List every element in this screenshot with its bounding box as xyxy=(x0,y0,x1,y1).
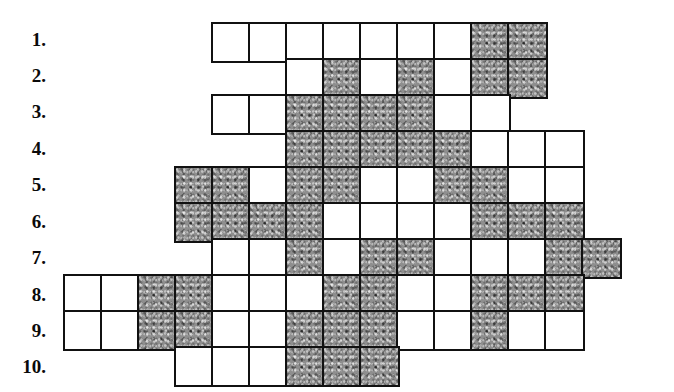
grid-cell-r3-c7[interactable] xyxy=(285,94,326,135)
grid-cell-r9-c4[interactable] xyxy=(174,310,215,351)
grid-cell-r8-c3[interactable] xyxy=(137,274,178,315)
grid-cell-r5-c5[interactable] xyxy=(211,166,252,207)
grid-cell-r4-c10[interactable] xyxy=(396,130,437,171)
grid-cell-r6-c10[interactable] xyxy=(396,202,437,243)
grid-cell-r2-c8[interactable] xyxy=(322,58,363,99)
grid-cell-r10-c4[interactable] xyxy=(174,346,215,387)
grid-cell-r7-c8[interactable] xyxy=(322,238,363,279)
grid-cell-r4-c7[interactable] xyxy=(285,130,326,171)
grid-cell-r6-c12[interactable] xyxy=(470,202,511,243)
grid-cell-r8-c2[interactable] xyxy=(100,274,141,315)
grid-cell-r7-c11[interactable] xyxy=(433,238,474,279)
grid-cell-r3-c5[interactable] xyxy=(211,94,252,135)
grid-cell-r2-c13[interactable] xyxy=(507,58,548,99)
grid-cell-r7-c9[interactable] xyxy=(359,238,400,279)
grid-cell-r8-c4[interactable] xyxy=(174,274,215,315)
grid-cell-r2-c11[interactable] xyxy=(433,58,474,99)
grid-cell-r1-c13[interactable] xyxy=(507,22,548,63)
grid-cell-r5-c7[interactable] xyxy=(285,166,326,207)
grid-cell-r2-c12[interactable] xyxy=(470,58,511,99)
grid-cell-r10-c9[interactable] xyxy=(359,346,400,387)
grid-cell-r8-c7[interactable] xyxy=(285,274,326,315)
grid-cell-r8-c12[interactable] xyxy=(470,274,511,315)
grid-cell-r10-c8[interactable] xyxy=(322,346,363,387)
grid-cell-r6-c11[interactable] xyxy=(433,202,474,243)
grid-cell-r5-c9[interactable] xyxy=(359,166,400,207)
grid-cell-r5-c11[interactable] xyxy=(433,166,474,207)
grid-cell-r1-c8[interactable] xyxy=(322,22,363,63)
grid-cell-r3-c6[interactable] xyxy=(248,94,289,135)
grid-cell-r9-c8[interactable] xyxy=(322,310,363,351)
grid-cell-r1-c7[interactable] xyxy=(285,22,326,63)
grid-cell-r9-c10[interactable] xyxy=(396,310,437,351)
grid-cell-r6-c9[interactable] xyxy=(359,202,400,243)
grid-cell-r6-c8[interactable] xyxy=(322,202,363,243)
grid-cell-r4-c13[interactable] xyxy=(507,130,548,171)
grid-cell-r6-c4[interactable] xyxy=(174,202,215,243)
grid-cell-r1-c5[interactable] xyxy=(211,22,252,63)
puzzle-grid xyxy=(0,0,674,392)
grid-cell-r8-c11[interactable] xyxy=(433,274,474,315)
grid-cell-r9-c9[interactable] xyxy=(359,310,400,351)
grid-cell-r4-c11[interactable] xyxy=(433,130,474,171)
grid-cell-r9-c11[interactable] xyxy=(433,310,474,351)
grid-cell-r7-c10[interactable] xyxy=(396,238,437,279)
grid-cell-r5-c12[interactable] xyxy=(470,166,511,207)
grid-cell-r8-c8[interactable] xyxy=(322,274,363,315)
grid-cell-r7-c13[interactable] xyxy=(507,238,548,279)
grid-cell-r3-c11[interactable] xyxy=(433,94,474,135)
grid-cell-r2-c10[interactable] xyxy=(396,58,437,99)
grid-cell-r3-c8[interactable] xyxy=(322,94,363,135)
grid-cell-r10-c6[interactable] xyxy=(248,346,289,387)
grid-cell-r7-c14[interactable] xyxy=(544,238,585,279)
grid-cell-r6-c13[interactable] xyxy=(507,202,548,243)
grid-cell-r7-c15[interactable] xyxy=(581,238,622,279)
grid-cell-r6-c14[interactable] xyxy=(544,202,585,243)
grid-cell-r8-c6[interactable] xyxy=(248,274,289,315)
grid-cell-r7-c5[interactable] xyxy=(211,238,252,279)
grid-cell-r10-c7[interactable] xyxy=(285,346,326,387)
grid-cell-r8-c5[interactable] xyxy=(211,274,252,315)
grid-cell-r6-c7[interactable] xyxy=(285,202,326,243)
grid-cell-r1-c11[interactable] xyxy=(433,22,474,63)
grid-cell-r5-c10[interactable] xyxy=(396,166,437,207)
grid-cell-r8-c9[interactable] xyxy=(359,274,400,315)
grid-cell-r4-c12[interactable] xyxy=(470,130,511,171)
grid-cell-r5-c4[interactable] xyxy=(174,166,215,207)
grid-cell-r8-c14[interactable] xyxy=(544,274,585,315)
grid-cell-r9-c14[interactable] xyxy=(544,310,585,351)
grid-cell-r5-c8[interactable] xyxy=(322,166,363,207)
grid-cell-r7-c7[interactable] xyxy=(285,238,326,279)
grid-cell-r1-c9[interactable] xyxy=(359,22,400,63)
grid-cell-r1-c12[interactable] xyxy=(470,22,511,63)
grid-cell-r9-c13[interactable] xyxy=(507,310,548,351)
grid-cell-r9-c3[interactable] xyxy=(137,310,178,351)
grid-cell-r3-c12[interactable] xyxy=(470,94,511,135)
grid-cell-r1-c6[interactable] xyxy=(248,22,289,63)
grid-cell-r8-c13[interactable] xyxy=(507,274,548,315)
grid-cell-r2-c9[interactable] xyxy=(359,58,400,99)
grid-cell-r9-c2[interactable] xyxy=(100,310,141,351)
grid-cell-r4-c14[interactable] xyxy=(544,130,585,171)
grid-cell-r8-c1[interactable] xyxy=(63,274,104,315)
grid-cell-r7-c6[interactable] xyxy=(248,238,289,279)
grid-cell-r9-c1[interactable] xyxy=(63,310,104,351)
grid-cell-r6-c5[interactable] xyxy=(211,202,252,243)
grid-cell-r10-c5[interactable] xyxy=(211,346,252,387)
grid-cell-r6-c6[interactable] xyxy=(248,202,289,243)
grid-cell-r3-c10[interactable] xyxy=(396,94,437,135)
grid-cell-r9-c5[interactable] xyxy=(211,310,252,351)
grid-cell-r5-c13[interactable] xyxy=(507,166,548,207)
grid-cell-r2-c7[interactable] xyxy=(285,58,326,99)
grid-cell-r3-c9[interactable] xyxy=(359,94,400,135)
grid-cell-r7-c12[interactable] xyxy=(470,238,511,279)
grid-cell-r9-c6[interactable] xyxy=(248,310,289,351)
grid-cell-r8-c10[interactable] xyxy=(396,274,437,315)
grid-cell-r4-c9[interactable] xyxy=(359,130,400,171)
grid-cell-r5-c6[interactable] xyxy=(248,166,289,207)
grid-cell-r4-c8[interactable] xyxy=(322,130,363,171)
grid-cell-r1-c10[interactable] xyxy=(396,22,437,63)
grid-cell-r9-c12[interactable] xyxy=(470,310,511,351)
grid-cell-r9-c7[interactable] xyxy=(285,310,326,351)
grid-cell-r5-c14[interactable] xyxy=(544,166,585,207)
